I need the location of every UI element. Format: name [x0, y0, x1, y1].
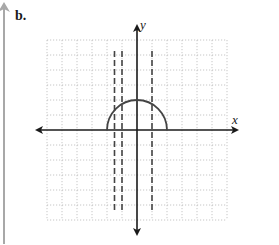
part-label: b.: [15, 8, 26, 24]
x-axis-label: x: [232, 112, 238, 128]
figure-canvas: b. y x: [0, 0, 279, 245]
dashed-lines: [115, 51, 153, 211]
y-axis-label: y: [140, 17, 146, 33]
